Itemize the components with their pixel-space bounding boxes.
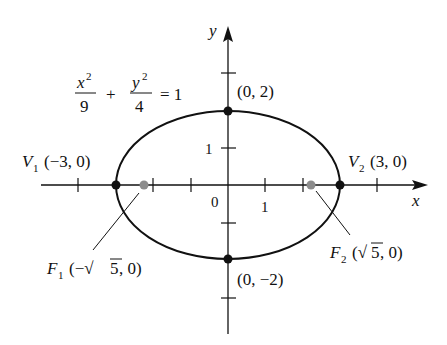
svg-text:2: 2 bbox=[86, 70, 92, 82]
x-axis-label: x bbox=[411, 191, 420, 210]
svg-text:4: 4 bbox=[135, 97, 144, 116]
ellipse-diagram: y x 0 1 1 x 2 9 + y 2 4 = 1 (0, 2) (0, −… bbox=[0, 0, 447, 345]
x-tick-label-1: 1 bbox=[261, 199, 269, 215]
vertex-v2-label: V 2 (3, 0) bbox=[348, 152, 407, 174]
covertex-bottom-point bbox=[224, 255, 233, 264]
svg-text:9: 9 bbox=[80, 97, 89, 116]
covertex-top-label: (0, 2) bbox=[237, 82, 274, 101]
covertex-top-point bbox=[224, 107, 233, 116]
focus-f1-point bbox=[140, 181, 149, 190]
svg-text:F: F bbox=[46, 259, 58, 278]
svg-text:= 1: = 1 bbox=[160, 85, 182, 104]
svg-text:5: 5 bbox=[110, 259, 119, 278]
svg-text:2: 2 bbox=[341, 253, 347, 265]
svg-text:, 0): , 0) bbox=[119, 259, 142, 278]
svg-text:(√: (√ bbox=[352, 243, 368, 262]
vertex-v1-point bbox=[112, 181, 121, 190]
svg-text:+: + bbox=[106, 85, 116, 104]
f2-leader-line bbox=[316, 191, 350, 235]
covertex-bottom-label: (0, −2) bbox=[237, 270, 283, 289]
y-tick-label-1: 1 bbox=[205, 141, 213, 157]
svg-text:1: 1 bbox=[33, 162, 39, 174]
focus-f2-label: F 2 (√ 5 , 0) bbox=[329, 243, 403, 265]
y-axis-label: y bbox=[207, 21, 217, 40]
svg-text:2: 2 bbox=[359, 162, 365, 174]
origin-label: 0 bbox=[211, 194, 219, 210]
svg-text:F: F bbox=[329, 243, 341, 262]
svg-text:(−3, 0): (−3, 0) bbox=[44, 152, 90, 171]
svg-text:2: 2 bbox=[142, 70, 148, 82]
vertex-v1-label: V 1 (−3, 0) bbox=[22, 152, 90, 174]
svg-text:, 0): , 0) bbox=[380, 243, 403, 262]
svg-text:1: 1 bbox=[58, 269, 64, 281]
svg-text:5: 5 bbox=[371, 243, 380, 262]
focus-f2-point bbox=[307, 181, 316, 190]
svg-text:x: x bbox=[76, 73, 85, 92]
vertex-v2-point bbox=[336, 181, 345, 190]
svg-text:y: y bbox=[130, 73, 140, 92]
svg-text:(−√: (−√ bbox=[69, 259, 94, 278]
svg-text:(3, 0): (3, 0) bbox=[370, 152, 407, 171]
ellipse-equation: x 2 9 + y 2 4 = 1 bbox=[75, 70, 182, 116]
focus-f1-label: F 1 (−√ 5 , 0) bbox=[46, 259, 142, 281]
f1-leader-line bbox=[93, 193, 139, 250]
